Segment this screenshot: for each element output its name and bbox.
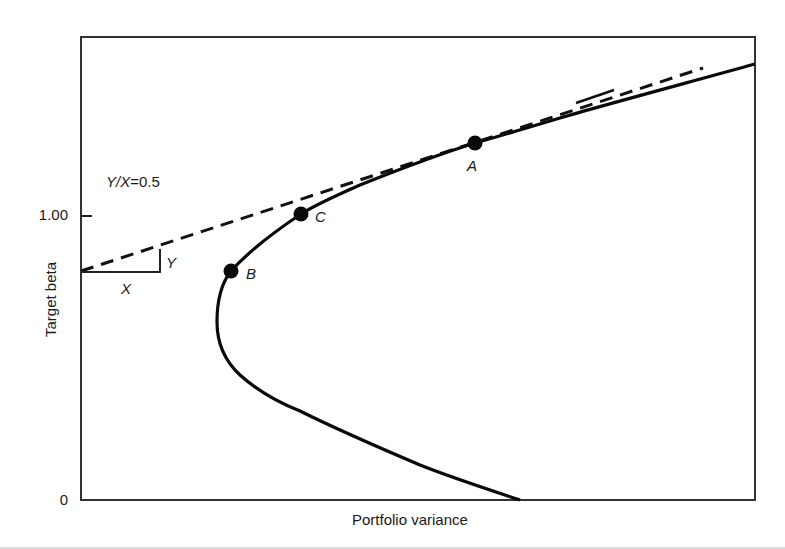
x-axis-title: Portfolio variance — [352, 511, 468, 528]
point-b-label: B — [246, 265, 256, 282]
ratio-suffix: =0.5 — [130, 173, 160, 190]
ratio-prefix: Y/X — [106, 173, 130, 190]
ytick-label-1: 1.00 — [18, 206, 68, 223]
slope-ratio-label: Y/X=0.5 — [106, 173, 160, 190]
triangle-x-label: X — [121, 280, 131, 297]
triangle-y-label: Y — [166, 254, 176, 271]
point-a-label: A — [467, 157, 477, 174]
plot-frame — [81, 37, 755, 500]
point-b-marker — [224, 264, 239, 279]
frontier-curve — [217, 64, 755, 500]
point-c-marker — [294, 207, 309, 222]
point-c-label: C — [315, 208, 326, 225]
point-a-marker — [468, 136, 483, 151]
tangent-line — [81, 68, 703, 271]
ytick-label-0: 0 — [18, 491, 68, 508]
tangent-line-fragment — [576, 90, 614, 103]
chart-canvas — [0, 0, 785, 549]
y-axis-title: Target beta — [42, 258, 59, 342]
